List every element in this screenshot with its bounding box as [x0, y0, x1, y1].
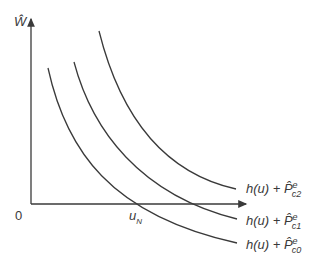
label-curve-c1: h(u) + P̂ec1	[246, 212, 301, 231]
origin-label: 0	[15, 208, 22, 223]
natural-rate-label: uN	[129, 208, 142, 226]
label-curve-c0: h(u) + P̂ec0	[246, 236, 301, 255]
label-curve-c2: h(u) + P̂ec2	[246, 180, 301, 199]
curve-c2	[99, 31, 236, 189]
x-tick-sub: N	[136, 217, 142, 226]
label-main: h(u) +	[246, 181, 284, 196]
curve-c0	[48, 68, 237, 243]
label-sub: c1	[292, 221, 302, 231]
label-main: h(u) +	[246, 213, 284, 228]
label-main: h(u) +	[246, 237, 284, 252]
label-sub: c0	[292, 245, 302, 255]
label-sub: c2	[292, 189, 302, 199]
curve-c1	[74, 62, 237, 219]
y-axis-label: Ŵ	[14, 14, 26, 29]
